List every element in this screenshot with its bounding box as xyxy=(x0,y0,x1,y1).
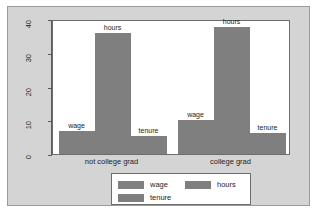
bar-wage-not-college-grad xyxy=(59,131,95,154)
legend-swatch-wage xyxy=(118,181,144,189)
chart-figure: 403020100 wagehourstenurewagehourstenure… xyxy=(0,0,317,212)
y-tick-label-wrap: 10 xyxy=(28,121,29,122)
bar-label-tenure: tenure xyxy=(258,124,278,132)
y-tick-label-wrap: 20 xyxy=(28,88,29,89)
figure-background: 403020100 wagehourstenurewagehourstenure… xyxy=(7,6,310,206)
y-tick-label: 0 xyxy=(25,155,33,159)
bar-label-wage: wage xyxy=(68,122,85,130)
y-tick-label: 20 xyxy=(25,88,33,96)
y-tick-label-wrap: 30 xyxy=(28,54,29,55)
legend-item-wage[interactable]: wage xyxy=(118,179,168,190)
legend-swatch-tenure xyxy=(118,194,144,202)
legend-item-tenure[interactable]: tenure xyxy=(118,192,171,203)
y-tick-label: 10 xyxy=(25,121,33,129)
legend-label: hours xyxy=(217,180,236,189)
bar-label-hours: hours xyxy=(223,18,241,26)
y-tick-label: 40 xyxy=(25,20,33,28)
legend-swatch-hours xyxy=(185,181,211,189)
chart-legend: wagehourstenure xyxy=(111,173,251,205)
legend-label: wage xyxy=(150,180,168,189)
bar-hours-not-college-grad xyxy=(95,33,131,155)
bar-wage-college-grad xyxy=(178,120,214,154)
y-tick-label-wrap: 40 xyxy=(28,20,29,21)
bar-tenure-college-grad xyxy=(250,133,286,154)
legend-label: tenure xyxy=(150,193,171,202)
bar-label-tenure: tenure xyxy=(139,127,159,135)
plot-area: wagehourstenurewagehourstenure xyxy=(52,20,290,155)
bar-hours-college-grad xyxy=(214,27,250,154)
bar-tenure-not-college-grad xyxy=(131,136,167,154)
x-axis-category-label: college grad xyxy=(210,157,251,166)
bars-container: wagehourstenurewagehourstenure xyxy=(53,21,289,154)
legend-item-hours[interactable]: hours xyxy=(185,179,236,190)
y-tick-label-wrap: 0 xyxy=(28,155,29,156)
x-axis: not college gradcollege grad xyxy=(52,157,290,169)
x-axis-category-label: not college grad xyxy=(85,157,138,166)
y-tick-label: 30 xyxy=(25,54,33,62)
bar-label-wage: wage xyxy=(187,111,204,119)
bar-label-hours: hours xyxy=(104,24,122,32)
